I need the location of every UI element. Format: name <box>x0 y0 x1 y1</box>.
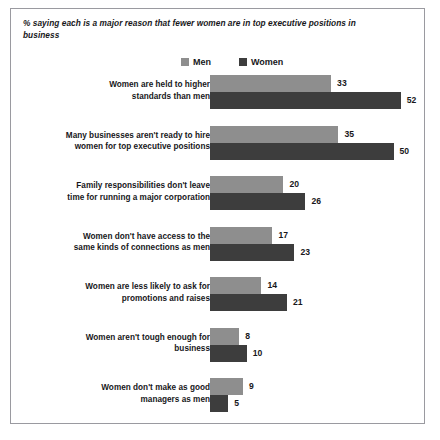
chart-frame: % saying each is a major reason that few… <box>10 8 425 424</box>
chart-bar-men <box>210 277 261 294</box>
chart-title: % saying each is a major reason that few… <box>23 17 378 41</box>
chart-bar-men <box>210 126 338 143</box>
chart-category-label-line: promotions and raises <box>20 293 210 305</box>
chart-bar-value: 33 <box>337 75 347 92</box>
chart-bar-value: 8 <box>245 328 250 345</box>
chart-row: Family responsibilities don't leavetime … <box>11 176 424 210</box>
chart-bar-women <box>210 143 394 160</box>
chart-bar-value: 14 <box>267 277 277 294</box>
chart-bar-value: 17 <box>278 227 288 244</box>
chart-bar-women <box>210 92 401 109</box>
chart-bar-men <box>210 227 272 244</box>
chart-legend: Men Women <box>11 55 424 69</box>
chart-category-label: Women are less likely to ask forpromotio… <box>20 281 210 305</box>
legend-item-women: Women <box>239 55 283 69</box>
chart-category-label-line: Women are held to higher <box>20 79 210 91</box>
chart-bar-women <box>210 244 294 261</box>
chart-bar-women <box>210 395 228 412</box>
chart-bar-value: 35 <box>344 126 354 143</box>
chart-bar-value: 26 <box>311 193 321 210</box>
chart-category-label: Women don't make as goodmanagers as men <box>20 382 210 406</box>
chart-row: Women aren't tough enough forbusiness810 <box>11 328 424 362</box>
legend-label-women: Women <box>251 58 283 67</box>
chart-bar-men <box>210 75 331 92</box>
chart-bar-value: 50 <box>400 143 410 160</box>
chart-bar-women <box>210 193 305 210</box>
chart-row: Many businesses aren't ready to hirewome… <box>11 126 424 160</box>
chart-bar-men <box>210 328 239 345</box>
chart-category-label: Women don't have access to thesame kinds… <box>20 231 210 255</box>
chart-bar-men <box>210 176 283 193</box>
chart-bar-women <box>210 345 247 362</box>
chart-category-label-line: standards than men <box>20 91 210 103</box>
legend-swatch-women <box>239 58 247 66</box>
legend-swatch-men <box>181 58 189 66</box>
chart-bar-value: 21 <box>293 294 303 311</box>
chart-bar-men <box>210 378 243 395</box>
legend-label-men: Men <box>193 58 211 67</box>
chart-category-label-line: Women don't have access to the <box>20 231 210 243</box>
chart-bar-value: 5 <box>234 395 239 412</box>
chart-bar-value: 52 <box>407 92 417 109</box>
chart-category-label: Family responsibilities don't leavetime … <box>20 180 210 204</box>
chart-bar-value: 20 <box>289 176 299 193</box>
chart-category-label-line: same kinds of connections as men <box>20 242 210 254</box>
chart-category-label-line: Women are less likely to ask for <box>20 281 210 293</box>
chart-bar-value: 10 <box>253 345 263 362</box>
chart-bar-value: 9 <box>249 378 254 395</box>
chart-category-label-line: Women aren't tough enough for <box>20 332 210 344</box>
chart-row: Women are held to higherstandards than m… <box>11 75 424 109</box>
chart-category-label-line: Family responsibilities don't leave <box>20 180 210 192</box>
chart-row: Women are less likely to ask forpromotio… <box>11 277 424 311</box>
chart-category-label-line: business <box>20 343 210 355</box>
chart-category-label: Many businesses aren't ready to hirewome… <box>20 130 210 154</box>
chart-category-label-line: time for running a major corporation <box>20 192 210 204</box>
chart-category-label-line: managers as men <box>20 394 210 406</box>
legend-item-men: Men <box>181 55 211 69</box>
chart-category-label-line: Many businesses aren't ready to hire <box>20 130 210 142</box>
chart-row: Women don't make as goodmanagers as men9… <box>11 378 424 412</box>
chart-category-label-line: Women don't make as good <box>20 382 210 394</box>
chart-category-label: Women are held to higherstandards than m… <box>20 79 210 103</box>
chart-category-label-line: women for top executive positions <box>20 141 210 153</box>
chart-row: Women don't have access to thesame kinds… <box>11 227 424 261</box>
chart-bar-value: 23 <box>300 244 310 261</box>
chart-bar-women <box>210 294 287 311</box>
chart-category-label: Women aren't tough enough forbusiness <box>20 332 210 356</box>
